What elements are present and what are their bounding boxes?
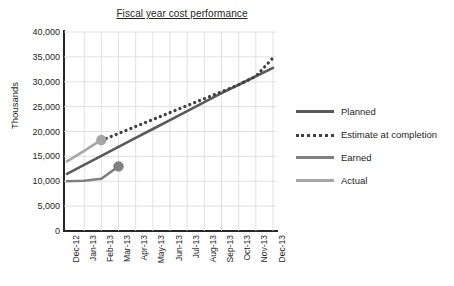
y-axis-tick-label: 25,000: [32, 102, 60, 112]
x-axis-tick-label: Jun-13: [174, 235, 184, 261]
x-axis-tick-label: Mar-13: [122, 235, 132, 262]
x-axis-tick-label: Apr-13: [139, 235, 149, 261]
legend-item[interactable]: Actual: [296, 169, 454, 192]
data-point-markers: [96, 135, 124, 172]
legend-label: Estimate at completion: [341, 129, 437, 140]
legend-item[interactable]: Earned: [296, 146, 454, 169]
x-axis-tick-label: May-13: [156, 235, 166, 263]
y-axis-tick-label: 40,000: [32, 27, 60, 37]
y-axis-tick-label: 20,000: [32, 127, 60, 137]
plot-area: [64, 32, 276, 231]
x-axis-tick-label: Jan-13: [88, 235, 98, 261]
legend-swatch-estimate-at-completion: [296, 129, 334, 140]
legend-label: Planned: [341, 106, 376, 117]
x-axis-tick-label: Dec-13: [277, 235, 287, 262]
y-axis-tick-label: 15,000: [32, 151, 60, 161]
legend-item[interactable]: Estimate at completion: [296, 123, 454, 146]
y-axis-tick-label: 5,000: [37, 201, 60, 211]
y-axis-tick-label: 30,000: [32, 77, 60, 87]
legend-swatch-earned: [296, 152, 334, 163]
gridlines: [64, 32, 276, 231]
chart-container: Fiscal year cost performance Thousands 0…: [0, 0, 454, 286]
x-axis-tick-labels: Dec-12Jan-13Feb-13Mar-13Apr-13May-13Jun-…: [64, 233, 276, 285]
x-axis-tick-label: Nov-13: [259, 235, 269, 262]
data-point-marker-actual: [96, 135, 106, 145]
legend-label: Earned: [341, 152, 372, 163]
y-axis-tick-label: 0: [55, 226, 60, 236]
data-point-marker-earned: [113, 161, 123, 171]
x-axis-tick-label: Oct-13: [242, 235, 252, 261]
legend-item[interactable]: Planned: [296, 100, 454, 123]
x-axis-tick-label: Sep-13: [225, 235, 235, 262]
x-axis-tick-label: Aug-13: [208, 235, 218, 262]
y-axis-tick-label: 35,000: [32, 52, 60, 62]
y-axis-tick-label: 10,000: [32, 176, 60, 186]
y-axis-tick-labels: 05,00010,00015,00020,00025,00030,00035,0…: [22, 26, 64, 237]
legend-swatch-actual: [296, 175, 334, 186]
chart-legend: PlannedEstimate at completionEarnedActua…: [296, 100, 454, 192]
series-plot-svg: [64, 32, 276, 231]
legend-label: Actual: [341, 175, 367, 186]
chart-title: Fiscal year cost performance: [72, 8, 292, 19]
x-axis-tick-label: Feb-13: [105, 235, 115, 262]
y-axis-title: Thousands: [9, 71, 20, 141]
x-axis-tick-label: Dec-12: [71, 235, 81, 262]
x-axis-tick-label: Jul-13: [191, 235, 201, 258]
legend-swatch-planned: [296, 106, 334, 117]
